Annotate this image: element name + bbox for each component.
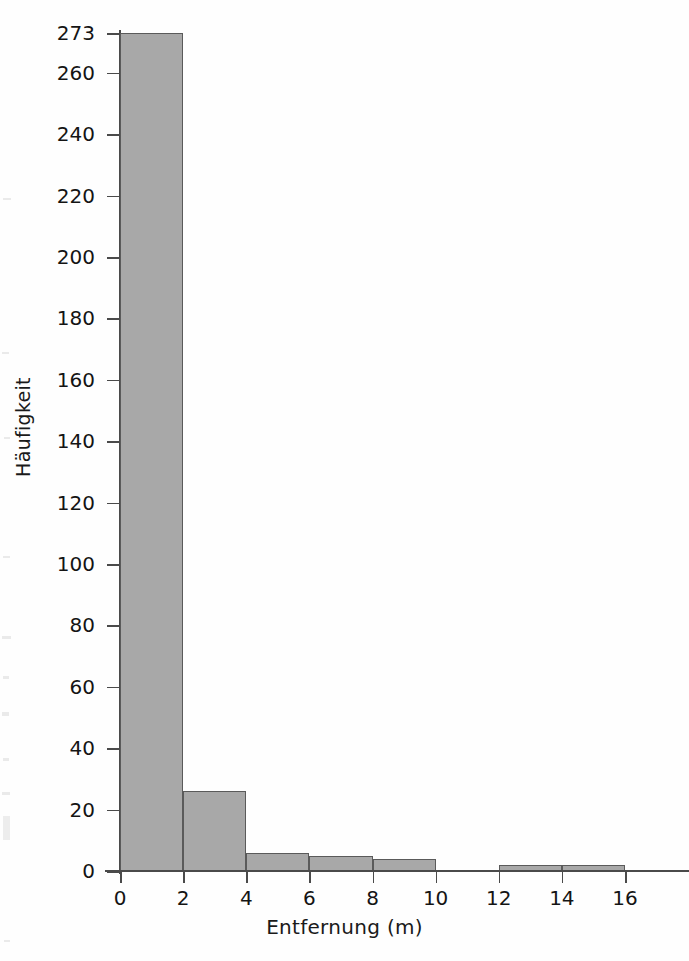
x-axis-tick-label: 14 [532,886,592,910]
y-axis-tick-label: 260 [0,61,95,85]
x-axis-tick-label: 2 [153,886,213,910]
y-axis-tick-label: 220 [0,184,95,208]
y-axis-tick [107,625,120,627]
y-axis-tick-label: 273 [0,21,95,45]
x-axis-tick-label: 12 [469,886,529,910]
y-axis-tick-labels: 020406080100120140160180200220240260273 [0,0,95,961]
x-axis-line [105,870,689,872]
y-axis-tick-label: 20 [0,798,95,822]
y-axis-tick [107,134,120,136]
histogram-bar [309,856,372,871]
y-axis-tick [107,73,120,75]
y-axis-tick-label: 40 [0,736,95,760]
y-axis-tick [107,33,120,35]
y-axis-tick [107,257,120,259]
y-axis-tick [107,687,120,689]
x-axis-tick [436,870,438,883]
y-axis-tick-label: 160 [0,368,95,392]
y-axis-tick-label: 180 [0,306,95,330]
x-axis-tick [499,870,501,883]
y-axis-tick-label: 100 [0,552,95,576]
y-axis-tick-label: 0 [0,859,95,883]
x-axis-tick [120,870,122,883]
y-axis-tick [107,748,120,750]
x-axis-tick [246,870,248,883]
x-axis-tick-label: 10 [406,886,466,910]
y-axis-tick [107,564,120,566]
y-axis-tick [107,196,120,198]
x-axis-tick-label: 0 [90,886,150,910]
x-axis-tick [183,870,185,883]
y-axis-tick [107,810,120,812]
y-axis-tick-label: 200 [0,245,95,269]
y-axis-tick-label: 60 [0,675,95,699]
x-axis-tick [562,870,564,883]
y-axis-tick [107,441,120,443]
x-axis-tick-label: 16 [595,886,655,910]
histogram-bar [183,791,246,871]
x-axis-tick [625,870,627,883]
x-axis-label: Entfernung (m) [0,915,689,939]
x-axis-tick-label: 6 [279,886,339,910]
x-axis-tick-label: 8 [343,886,403,910]
histogram-figure: Häufigkeit 02040608010012014016018020022… [0,0,689,961]
y-axis-tick [107,503,120,505]
histogram-bar [246,853,309,871]
y-axis-tick-label: 120 [0,491,95,515]
x-axis-tick-label: 4 [216,886,276,910]
x-axis-tick [309,870,311,883]
histogram-bar [120,33,183,871]
y-axis-tick [107,380,120,382]
plot-area [120,33,625,871]
y-axis-tick [107,318,120,320]
x-axis-tick [373,870,375,883]
y-axis-tick-label: 80 [0,613,95,637]
y-axis-tick-label: 140 [0,429,95,453]
y-axis-tick-label: 240 [0,122,95,146]
